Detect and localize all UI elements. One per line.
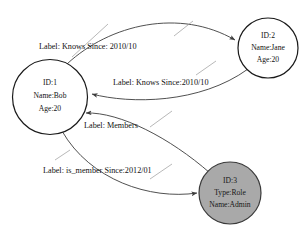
node-1-line-3: Age:20 <box>39 104 62 113</box>
leader-line-is-member-2 <box>55 150 70 160</box>
edge-label-knows-out: Label: Knows Since: 2010/10 <box>39 42 137 51</box>
leader-line-knows-in <box>196 61 216 75</box>
leader-line-members <box>150 111 172 127</box>
edge-label-knows-in: Label: Knows Since:2010/10 <box>113 78 209 87</box>
node-1-line-1: ID:1 <box>43 78 57 87</box>
graph-node-2[interactable]: ID:2 Name:Jane Age:20 <box>238 18 298 78</box>
leader-line-knows-out <box>72 24 108 57</box>
leader-line-is-member <box>150 164 172 179</box>
graph-node-3[interactable]: ID:3 Type:Role Name:Admin <box>199 162 261 224</box>
graph-node-1[interactable]: ID:1 Name:Bob Age:20 <box>13 60 88 135</box>
graph-diagram: ID:1 Name:Bob Age:20 ID:2 Name:Jane Age:… <box>0 0 303 233</box>
node-2-line-3: Age:20 <box>257 55 280 64</box>
node-3-line-3: Name:Admin <box>209 200 251 209</box>
node-2-line-2: Name:Jane <box>251 43 285 52</box>
node-3-line-2: Type:Role <box>214 188 246 197</box>
node-2-line-1: ID:2 <box>261 31 275 40</box>
node-1-line-2: Name:Bob <box>34 91 67 100</box>
diagram-canvas: ID:1 Name:Bob Age:20 ID:2 Name:Jane Age:… <box>0 0 303 233</box>
node-3-line-1: ID:3 <box>223 176 237 185</box>
edge-label-is-member: Label: is_member Since:2012/01 <box>43 166 152 175</box>
edge-is-member-path <box>62 131 197 194</box>
edge-label-members: Label: Members <box>84 121 138 130</box>
